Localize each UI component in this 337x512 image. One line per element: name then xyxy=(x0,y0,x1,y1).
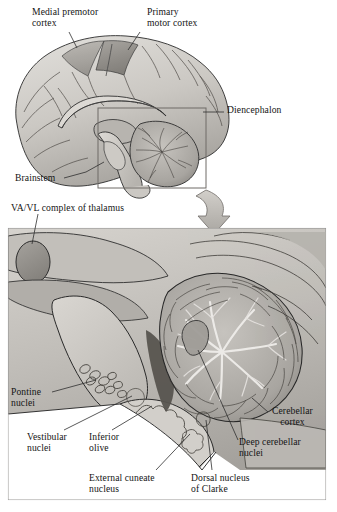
label-primary-motor-cortex: Primarymotor cortex xyxy=(147,6,197,28)
label-external-cuneate-nucleus: External cuneatenucleus xyxy=(89,472,155,494)
label-brainstem: Brainstem xyxy=(15,172,55,183)
label-medial-premotor-cortex: Medial premotorcortex xyxy=(32,6,98,28)
label-vestibular-nuclei: Vestibularnuclei xyxy=(27,431,67,453)
label-va-vl-complex-of-thalamus: VA/VL complex of thalamus xyxy=(11,202,124,213)
label-pontine-nuclei: Pontinenuclei xyxy=(11,386,41,408)
label-dorsal-nucleus-of-clarke: Dorsal nucleusof Clarke xyxy=(191,472,250,494)
label-cerebellar-cortex: Cerebellarcortex xyxy=(272,405,313,427)
label-inferior-olive: Inferiorolive xyxy=(89,431,119,453)
label-deep-cerebellar-nuclei: Deep cerebellarnuclei xyxy=(239,436,301,458)
label-diencephalon: Diencephalon xyxy=(227,104,281,115)
va-vl-thalamus-oval xyxy=(16,241,50,283)
